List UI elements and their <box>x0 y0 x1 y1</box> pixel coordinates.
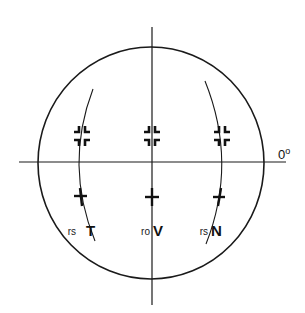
label-center-prefix: ro <box>141 226 150 237</box>
label-left-letter: T <box>86 222 95 239</box>
perimetry-diagram: rs T ro V rs N 0o <box>0 0 305 313</box>
label-center-letter: V <box>153 222 163 239</box>
axis-degree-label: 0o <box>278 146 290 162</box>
label-right-prefix: rs <box>200 226 208 237</box>
label-left-prefix: rs <box>68 226 76 237</box>
broken-cross-icon-right <box>214 126 230 146</box>
plus-icon-center <box>145 188 159 206</box>
field-circle <box>38 47 264 279</box>
left-meridian-arc <box>79 89 95 241</box>
plus-icon-left <box>74 188 87 206</box>
plus-icon-right <box>213 188 225 206</box>
label-right-letter: N <box>211 222 222 239</box>
